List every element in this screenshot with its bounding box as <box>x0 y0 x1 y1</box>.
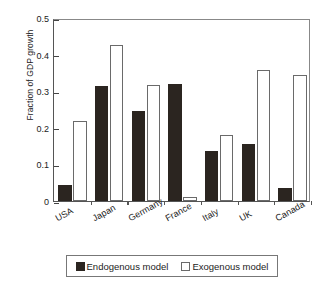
y-tick-label: 0.1 <box>36 160 49 170</box>
x-label-uk: UK <box>237 208 253 223</box>
x-tick-mark <box>91 201 92 205</box>
x-label-france: France <box>164 201 194 224</box>
y-tick-label: 0.3 <box>36 87 49 97</box>
chart-legend: Endogenous model Exogenous model <box>66 255 278 277</box>
x-label-italy: Italy <box>200 206 220 223</box>
x-tick-mark <box>238 201 239 205</box>
bar-france-exogenous <box>183 197 197 201</box>
plot-area: 0 0.1 0.2 0.3 0.4 0.5 <box>53 19 310 202</box>
bar-germany-endogenous <box>132 111 146 201</box>
bar-canada-endogenous <box>278 188 292 201</box>
bar-chart-figure: Fraction of GDP growth 0 0.1 0.2 0.3 0.4… <box>0 0 326 293</box>
bar-italy-exogenous <box>220 135 234 201</box>
bar-uk-endogenous <box>242 144 256 201</box>
legend-entry-exogenous: Exogenous model <box>181 261 268 272</box>
y-tick-label: 0 <box>44 197 49 207</box>
y-tick-label: 0.2 <box>36 124 49 134</box>
legend-entry-endogenous: Endogenous model <box>76 261 169 272</box>
bar-usa-endogenous <box>58 185 72 201</box>
bar-series-container <box>54 20 309 201</box>
bar-italy-endogenous <box>205 151 219 202</box>
x-tick-mark <box>311 201 312 205</box>
x-tick-mark <box>127 201 128 205</box>
bar-uk-exogenous <box>257 70 271 201</box>
bar-japan-endogenous <box>95 86 109 201</box>
y-axis-label: Fraction of GDP growth <box>25 0 35 150</box>
y-tick-mark <box>54 203 59 204</box>
y-tick-label: 0.4 <box>36 51 49 61</box>
x-label-usa: USA <box>54 206 75 224</box>
x-label-canada: Canada <box>274 199 307 223</box>
bar-germany-exogenous <box>147 85 161 201</box>
bar-usa-exogenous <box>73 121 87 201</box>
y-tick-label: 0.5 <box>36 14 49 24</box>
legend-swatch-filled-icon <box>76 262 85 271</box>
bar-france-endogenous <box>168 84 182 201</box>
bar-canada-exogenous <box>293 75 307 201</box>
x-tick-mark <box>274 201 275 205</box>
legend-swatch-open-icon <box>181 262 190 271</box>
x-label-japan: Japan <box>90 202 117 223</box>
legend-label-endogenous: Endogenous model <box>87 261 169 272</box>
bar-japan-exogenous <box>110 45 124 201</box>
x-tick-mark <box>201 201 202 205</box>
legend-label-exogenous: Exogenous model <box>192 261 268 272</box>
